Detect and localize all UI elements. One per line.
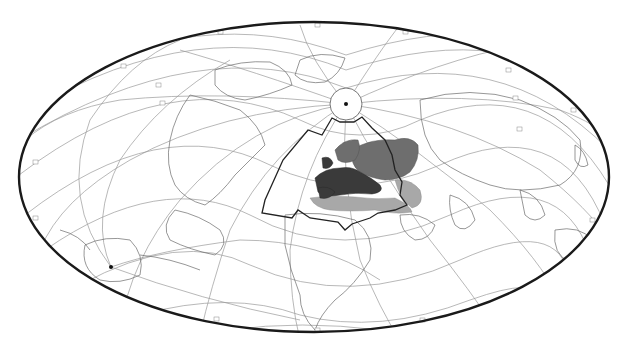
india-coast xyxy=(450,195,475,229)
south-pole-dot xyxy=(109,265,113,269)
se-asia-coast xyxy=(520,190,545,220)
region-dark-british-isles xyxy=(322,157,333,168)
asia-coast xyxy=(420,93,581,191)
australia-coast xyxy=(555,229,592,262)
region-mid-scandinavia xyxy=(335,140,359,163)
graticule-labels xyxy=(33,23,595,332)
canada-arctic-coast xyxy=(215,62,292,100)
africa-coast xyxy=(285,213,371,330)
north-america-coast xyxy=(168,95,265,205)
north-pole-dot xyxy=(344,102,348,106)
graticule xyxy=(19,25,609,340)
map-frame xyxy=(19,22,609,332)
south-america-coast xyxy=(166,210,224,255)
world-map xyxy=(0,0,628,349)
region-light-north-africa xyxy=(310,196,412,213)
arabia-coast xyxy=(400,214,435,240)
